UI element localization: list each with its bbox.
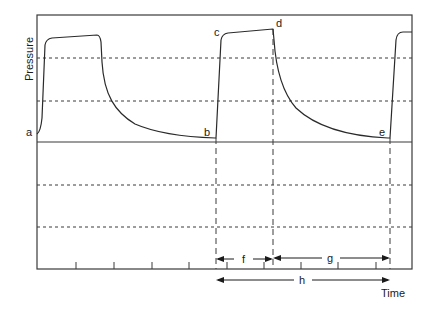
x-axis-label: Time (381, 287, 405, 299)
point-label-c: c (214, 26, 220, 38)
point-label-d: d (276, 17, 282, 29)
interval-label-f: f (242, 253, 246, 265)
point-label-a: a (26, 126, 33, 138)
point-label-e: e (379, 126, 385, 138)
interval-label-h: h (299, 274, 305, 286)
point-label-b: b (204, 126, 210, 138)
y-axis-label: Pressure (23, 37, 35, 81)
interval-label-g: g (327, 252, 333, 264)
pressure-waveform (37, 29, 412, 138)
pressure-time-diagram: Pressure Time a b c d e f g h (0, 0, 434, 314)
